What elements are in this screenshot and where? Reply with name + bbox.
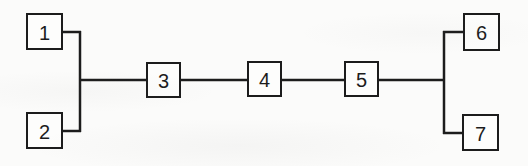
node-box-3: 3: [147, 63, 180, 97]
node-box-4: 4: [248, 62, 281, 96]
node-label: 3: [158, 70, 169, 92]
node-label: 4: [259, 69, 270, 91]
node-box-7: 7: [463, 115, 498, 150]
node-box-1: 1: [27, 14, 62, 49]
node-label: 7: [475, 123, 486, 145]
diagram-page: 1234567: [0, 0, 528, 166]
node-label: 6: [476, 22, 487, 44]
node-box-5: 5: [345, 62, 378, 96]
node-label: 2: [39, 121, 50, 143]
node-box-2: 2: [27, 113, 62, 148]
node-label: 1: [39, 22, 50, 44]
diagram-canvas: 1234567: [0, 0, 528, 166]
node-box-6: 6: [464, 14, 499, 50]
node-label: 5: [356, 69, 367, 91]
